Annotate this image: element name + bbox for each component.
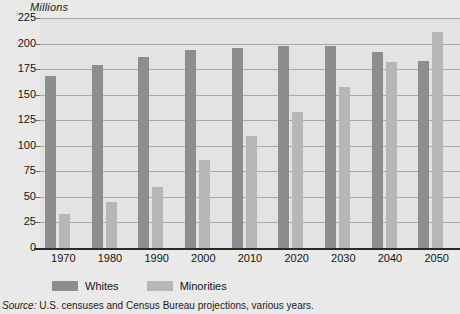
bar-minorities-2000: [199, 160, 210, 250]
y-tick-label: 200: [2, 37, 36, 49]
bar-minorities-1980: [106, 202, 117, 250]
plot-wrapper: 2252001751501251007550250: [0, 18, 460, 250]
y-tick-label: 75: [2, 164, 36, 176]
bar-minorities-2030: [339, 87, 350, 250]
y-tick-label: 25: [2, 215, 36, 227]
source-text: U.S. censuses and Census Bureau projecti…: [39, 300, 314, 311]
bar-group: [273, 18, 320, 250]
y-tick-label: 50: [2, 190, 36, 202]
bar-minorities-1970: [59, 214, 70, 250]
y-tick-label: 150: [2, 88, 36, 100]
x-tick-label: 2010: [227, 252, 273, 264]
bar-whites-2050: [418, 61, 429, 250]
bar-minorities-2010: [246, 136, 257, 250]
x-tick-label: 2030: [320, 252, 366, 264]
y-tick-label: 225: [2, 11, 36, 23]
bar-group: [180, 18, 227, 250]
y-tick-label: 0: [2, 241, 36, 253]
source-label: Source:: [2, 300, 36, 311]
bar-minorities-1990: [152, 187, 163, 250]
bar-group: [320, 18, 367, 250]
bar-whites-1980: [92, 65, 103, 250]
bar-minorities-2050: [432, 32, 443, 250]
bar-whites-2000: [185, 50, 196, 250]
bar-group: [367, 18, 414, 250]
bar-whites-2040: [372, 52, 383, 250]
bar-group: [413, 18, 460, 250]
x-tick-label: 1970: [40, 252, 86, 264]
y-tick-label: 125: [2, 113, 36, 125]
bar-whites-2010: [232, 48, 243, 250]
bar-group: [133, 18, 180, 250]
bar-group: [87, 18, 134, 250]
x-tick-label: 1990: [134, 252, 180, 264]
bar-whites-1970: [45, 76, 56, 250]
bar-minorities-2020: [292, 112, 303, 250]
source-note: Source: U.S. censuses and Census Bureau …: [2, 300, 314, 311]
legend-swatch-minorities: [147, 281, 173, 291]
y-tick-label: 175: [2, 62, 36, 74]
bar-minorities-2040: [386, 62, 397, 250]
x-tick-label: 1980: [87, 252, 133, 264]
legend-item-whites: Whites: [52, 280, 119, 292]
legend-label: Whites: [85, 280, 119, 292]
legend-swatch-whites: [52, 281, 78, 291]
x-tick-label: 2050: [414, 252, 460, 264]
x-axis-labels: 197019801990200020102020203020402050: [40, 252, 460, 268]
bar-group: [227, 18, 274, 250]
x-tick-label: 2040: [367, 252, 413, 264]
bar-whites-2020: [278, 46, 289, 250]
bar-whites-2030: [325, 46, 336, 250]
x-axis-line: [34, 248, 460, 250]
bar-whites-1990: [138, 57, 149, 250]
chart-legend: WhitesMinorities: [52, 280, 249, 292]
bars-layer: [40, 18, 460, 250]
x-tick-label: 2000: [180, 252, 226, 264]
chart-figure: Millions 2252001751501251007550250 19701…: [0, 0, 460, 314]
bar-group: [40, 18, 87, 250]
x-tick-label: 2020: [274, 252, 320, 264]
y-tick-label: 100: [2, 139, 36, 151]
legend-label: Minorities: [180, 280, 227, 292]
legend-item-minorities: Minorities: [147, 280, 227, 292]
